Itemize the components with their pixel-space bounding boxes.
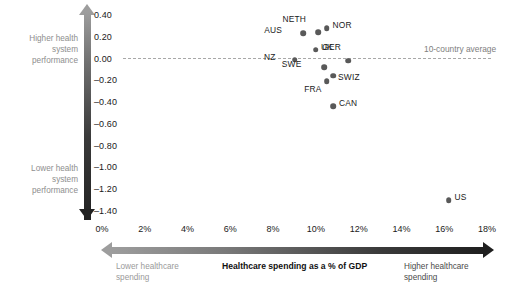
y-axis-tick: –1.40 xyxy=(94,206,117,216)
data-point-label-nor: NOR xyxy=(333,20,352,30)
average-reference-label: 10-country average xyxy=(424,44,496,54)
y-axis-tick: 0.40 xyxy=(94,10,112,20)
lower-spending-note: Lower healthcare spending xyxy=(116,261,212,283)
higher-performance-note: Higher health system performance xyxy=(4,33,78,66)
y-axis-arrow-down-icon xyxy=(79,209,95,220)
data-point-label-can: CAN xyxy=(339,98,357,108)
y-axis-tick: –0.60 xyxy=(94,119,117,129)
y-axis-tick: –1.00 xyxy=(94,162,117,172)
x-axis-line xyxy=(112,247,484,254)
scatter-chart: Higher health system performance Lower h… xyxy=(0,0,513,291)
x-axis-tick: 8% xyxy=(267,224,280,234)
lower-performance-note: Lower health system performance xyxy=(4,163,78,196)
data-point-label-aus: AUS xyxy=(264,25,282,35)
data-point-swe[interactable] xyxy=(322,64,328,70)
y-axis-tick: 0.00 xyxy=(94,54,112,64)
data-point-label-neth: NETH xyxy=(282,14,306,24)
data-point-label-swe: SWE xyxy=(282,59,302,69)
y-axis-tick: –1.20 xyxy=(94,184,117,194)
data-point-aus[interactable] xyxy=(300,31,306,37)
data-point-label-nz: NZ xyxy=(264,52,276,62)
data-point-ger[interactable] xyxy=(345,58,351,64)
data-point-nor[interactable] xyxy=(324,25,330,31)
x-axis-tick: 6% xyxy=(224,224,237,234)
data-point-neth[interactable] xyxy=(315,30,321,36)
higher-spending-note: Higher healthcare spending xyxy=(404,261,504,283)
y-axis-tick: –0.40 xyxy=(94,97,117,107)
x-axis-tick: 4% xyxy=(181,224,194,234)
y-axis-line xyxy=(84,12,91,220)
data-point-uk[interactable] xyxy=(313,47,319,53)
y-axis-tick: –0.80 xyxy=(94,141,117,151)
data-point-label-us: US xyxy=(455,192,467,202)
data-point-swiz[interactable] xyxy=(330,73,336,79)
data-point-label-swiz: SWIZ xyxy=(338,72,360,82)
x-axis-tick: 12% xyxy=(350,224,368,234)
x-axis-tick: 14% xyxy=(392,224,410,234)
x-axis-arrow-left-icon xyxy=(101,242,112,258)
x-axis-title: Healthcare spending as a % of GDP xyxy=(222,261,422,272)
y-axis-tick: 0.20 xyxy=(94,32,112,42)
data-point-fra[interactable] xyxy=(324,79,330,85)
data-point-label-ger: GER xyxy=(322,42,341,52)
data-point-us[interactable] xyxy=(446,197,452,203)
x-axis-tick: 2% xyxy=(138,224,151,234)
data-point-label-fra: FRA xyxy=(304,84,321,94)
average-reference-line xyxy=(123,58,491,59)
x-axis-tick: 10% xyxy=(307,224,325,234)
y-axis-tick: –0.20 xyxy=(94,75,117,85)
x-axis-tick: 18% xyxy=(478,224,496,234)
x-axis-tick: 0% xyxy=(95,224,108,234)
data-point-can[interactable] xyxy=(330,104,336,110)
x-axis-tick: 16% xyxy=(435,224,453,234)
x-axis-arrow-right-icon xyxy=(483,242,494,258)
